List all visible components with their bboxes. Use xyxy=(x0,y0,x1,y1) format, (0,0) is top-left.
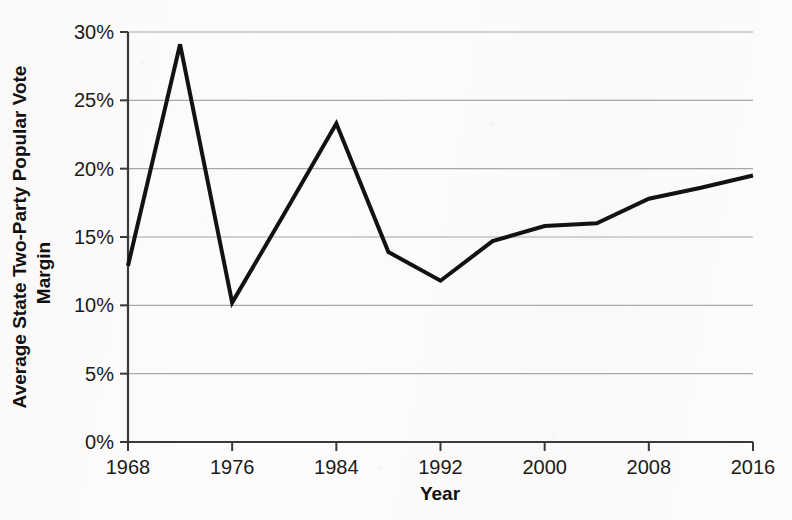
y-axis-tick-label: 10% xyxy=(74,294,114,316)
x-axis-tick-label-group: 1968197619841992200020082016 xyxy=(106,456,776,478)
gridline-group xyxy=(128,32,753,374)
y-axis-tick-label: 0% xyxy=(85,431,114,453)
y-axis-tick-label: 25% xyxy=(74,89,114,111)
y-axis-title-line-1: Average State Two-Party Popular Vote xyxy=(9,66,30,409)
x-axis-tick-label: 1992 xyxy=(418,456,463,478)
y-axis-tick-label: 30% xyxy=(74,21,114,43)
y-axis-tick-label: 5% xyxy=(85,363,114,385)
x-axis-tick-label: 1968 xyxy=(106,456,151,478)
x-axis-tick-label: 2008 xyxy=(627,456,672,478)
x-axis-title: Year xyxy=(420,483,461,504)
x-axis-tick-label: 2016 xyxy=(731,456,776,478)
y-axis-tick-label: 20% xyxy=(74,158,114,180)
y-axis-title-line-2: Margin xyxy=(33,242,54,304)
y-axis-tick-label: 15% xyxy=(74,226,114,248)
chart-figure: 0%5%10%15%20%25%30% 19681976198419922000… xyxy=(0,0,792,520)
y-axis-tick-group xyxy=(120,32,128,442)
x-axis-tick-label: 2000 xyxy=(522,456,567,478)
line-chart: 0%5%10%15%20%25%30% 19681976198419922000… xyxy=(0,0,792,520)
y-axis-tick-label-group: 0%5%10%15%20%25%30% xyxy=(74,21,114,453)
x-axis-tick-label: 1976 xyxy=(210,456,255,478)
data-series-line xyxy=(128,44,753,302)
x-axis-tick-group xyxy=(128,442,753,451)
x-axis-tick-label: 1984 xyxy=(314,456,359,478)
y-axis-title: Average State Two-Party Popular Vote Mar… xyxy=(9,66,54,409)
